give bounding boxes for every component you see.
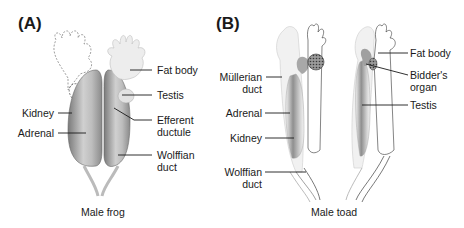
label-mullerian-line1: Müllerian xyxy=(210,71,262,83)
toad-illustration xyxy=(265,24,408,202)
label-mullerian-duct: Müllerian duct xyxy=(210,71,262,95)
label-efferent-line1: Efferent xyxy=(157,114,194,126)
label-kidney-frog: Kidney xyxy=(18,107,54,119)
label-wolffian-line1: Wolffian xyxy=(157,149,195,161)
label-wolffian-toad-line1: Wolffian xyxy=(210,166,262,178)
label-testis-toad: Testis xyxy=(410,99,437,111)
label-efferent-line2: ductule xyxy=(157,126,194,138)
label-wolffian-duct-frog: Wolffian duct xyxy=(157,149,195,173)
label-wolffian-line2: duct xyxy=(157,161,195,173)
frog-illustration xyxy=(54,31,152,196)
label-testis-frog: Testis xyxy=(157,89,184,101)
label-bidders-organ: Bidder's organ xyxy=(410,69,448,93)
label-kidney-toad: Kidney xyxy=(210,132,262,144)
panel-a-letter: (A) xyxy=(18,14,42,34)
label-wolffian-toad-line2: duct xyxy=(210,178,262,190)
label-efferent-ductule: Efferent ductule xyxy=(157,114,194,138)
label-bidders-line2: organ xyxy=(410,81,448,93)
panel-b-letter: (B) xyxy=(216,14,240,34)
label-bidders-line1: Bidder's xyxy=(410,69,448,81)
label-mullerian-line2: duct xyxy=(210,83,262,95)
label-adrenal-frog: Adrenal xyxy=(10,127,54,139)
caption-male-frog: Male frog xyxy=(81,206,125,218)
caption-male-toad: Male toad xyxy=(311,206,357,218)
label-fat-body-toad: Fat body xyxy=(410,47,451,59)
label-wolffian-duct-toad: Wolffian duct xyxy=(210,166,262,190)
label-fat-body-frog: Fat body xyxy=(157,64,198,76)
label-adrenal-toad: Adrenal xyxy=(210,107,262,119)
